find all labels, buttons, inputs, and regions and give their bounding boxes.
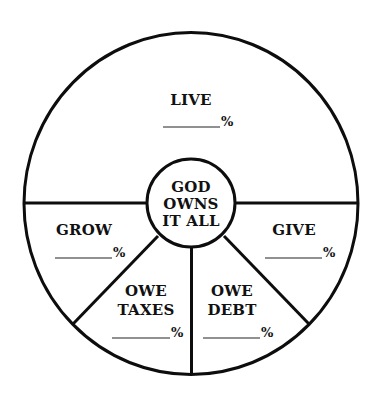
budget-wheel-diagram: GOD OWNS IT ALL LIVE % GROW % GIVE % OWE… <box>0 0 380 399</box>
segment-give-percent: % <box>323 245 336 260</box>
segment-owe-debt-label-1: OWE <box>211 282 253 300</box>
segment-owe-debt: OWE DEBT % <box>203 282 274 340</box>
segment-owe-taxes-percent: % <box>171 325 184 340</box>
segment-live-label: LIVE <box>170 91 211 109</box>
segment-live-percent: % <box>221 114 234 129</box>
segment-grow-label: GROW <box>56 221 113 239</box>
segment-owe-taxes-label-2: TAXES <box>118 301 175 319</box>
center-line-3: IT ALL <box>162 212 220 230</box>
segment-owe-taxes: OWE TAXES % <box>112 282 184 340</box>
segment-owe-taxes-label-1: OWE <box>125 282 167 300</box>
segment-owe-debt-label-2: DEBT <box>207 301 257 319</box>
segment-give-label: GIVE <box>272 221 316 239</box>
center-line-2: OWNS <box>163 195 218 213</box>
segment-live: LIVE % <box>163 91 234 129</box>
segment-give: GIVE % <box>265 221 336 260</box>
segment-grow-percent: % <box>113 245 126 260</box>
center-line-1: GOD <box>171 178 210 196</box>
segment-grow: GROW % <box>55 221 126 260</box>
segment-owe-debt-percent: % <box>261 325 274 340</box>
